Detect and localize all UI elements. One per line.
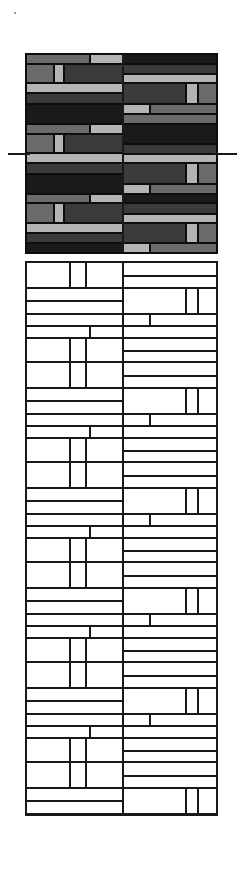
outline-brick: [123, 626, 217, 638]
corner-speck: [14, 12, 16, 14]
outline-brick: [86, 562, 123, 588]
outline-brick: [70, 762, 86, 788]
tonal-brick: [54, 203, 64, 223]
tonal-brick: [123, 114, 217, 124]
outline-brick: [26, 501, 123, 514]
tonal-brick: [26, 163, 123, 174]
outline-brick: [123, 776, 217, 788]
outline-brick: [123, 651, 217, 662]
outline-brick: [123, 414, 150, 426]
outline-brick: [26, 801, 123, 814]
outline-brick: [123, 788, 186, 814]
tonal-brick: [123, 144, 217, 155]
outline-brick: [150, 514, 217, 526]
tonal-brick: [123, 154, 217, 163]
outline-brick: [26, 626, 90, 638]
outline-brick: [123, 726, 217, 738]
tonal-brick: [26, 223, 123, 233]
outline-brick: [90, 726, 123, 738]
outline-brick: [150, 714, 217, 726]
tonal-brick: [123, 194, 217, 204]
tonal-brick: [123, 214, 217, 223]
outline-brick: [123, 338, 217, 351]
outline-brick: [26, 314, 123, 326]
tonal-brick: [26, 93, 123, 104]
tonal-brick: [198, 223, 217, 243]
outline-brick: [26, 326, 90, 338]
tonal-brick: [186, 163, 198, 184]
outline-brick: [123, 576, 217, 588]
outline-brick: [70, 362, 86, 388]
outline-brick: [26, 601, 123, 614]
outline-brick: [123, 551, 217, 562]
outline-brick: [198, 588, 217, 614]
tonal-sample-panel: [25, 53, 218, 254]
tonal-brick: [123, 54, 217, 64]
outline-brick: [150, 314, 217, 326]
outline-brick: [198, 288, 217, 314]
tonal-brick: [54, 64, 64, 84]
outline-brick: [123, 688, 186, 714]
outline-brick: [123, 462, 217, 476]
outline-brick: [186, 788, 198, 814]
outline-brick: [86, 262, 123, 288]
tonal-brick: [123, 203, 217, 214]
outline-brick: [123, 562, 217, 576]
outline-brick: [186, 388, 198, 414]
outline-brick: [26, 738, 70, 762]
tonal-brick: [64, 203, 123, 223]
outline-brick: [26, 726, 90, 738]
tonal-brick: [123, 223, 186, 243]
outline-brick: [123, 614, 150, 626]
tonal-brick: [26, 153, 123, 163]
tonal-brick: [90, 194, 123, 204]
tonal-brick: [26, 233, 123, 244]
tonal-brick: [54, 134, 64, 154]
outline-brick: [70, 462, 86, 488]
outline-brick: [123, 262, 217, 276]
outline-brick: [26, 401, 123, 414]
tonal-brick: [26, 83, 123, 93]
tonal-brick: [64, 134, 123, 154]
tonal-brick: [123, 124, 217, 144]
outline-brick: [26, 301, 123, 314]
outline-brick: [123, 362, 217, 376]
outline-brick: [123, 676, 217, 688]
outline-brick: [70, 738, 86, 762]
tonal-brick: [186, 83, 198, 104]
outline-brick: [123, 488, 186, 514]
bay-divider: [122, 54, 124, 253]
outline-brick: [26, 414, 123, 426]
outline-brick: [86, 638, 123, 662]
outline-brick: [26, 588, 123, 601]
outline-brick: [86, 538, 123, 562]
tonal-brick: [90, 54, 123, 64]
outline-brick: [70, 662, 86, 688]
outline-brick: [123, 326, 217, 338]
outline-brick: [123, 814, 150, 816]
outline-brick: [86, 462, 123, 488]
outline-brick: [123, 738, 217, 751]
outline-brick: [70, 538, 86, 562]
tonal-brick: [26, 124, 90, 134]
datum-line-right-tick: [212, 153, 237, 155]
outline-brick: [26, 338, 70, 362]
outline-brick: [198, 688, 217, 714]
outline-brick: [26, 638, 70, 662]
tonal-brick: [26, 134, 54, 154]
outline-brick: [123, 376, 217, 388]
outline-brick: [123, 426, 217, 438]
datum-line-left-tick: [8, 153, 30, 155]
outline-brick: [26, 714, 123, 726]
tonal-brick: [26, 174, 123, 194]
outline-brick: [123, 314, 150, 326]
tonal-brick: [150, 184, 217, 194]
outline-brick: [123, 476, 217, 488]
outline-brick: [86, 762, 123, 788]
outline-brick: [123, 388, 186, 414]
outline-brick: [150, 414, 217, 426]
outline-brick: [70, 262, 86, 288]
bay-divider: [122, 262, 124, 815]
outline-brick: [26, 462, 70, 488]
outline-brick: [123, 751, 217, 762]
